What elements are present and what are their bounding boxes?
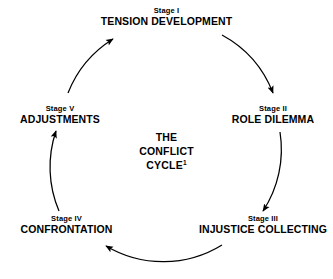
arc-stage3-to-stage4 xyxy=(106,245,222,262)
stage-title-3: INJUSTICE COLLECTING xyxy=(193,224,333,235)
stage-label-injustice-collecting: Stage III INJUSTICE COLLECTING xyxy=(193,215,333,235)
stage-title-4: CONFRONTATION xyxy=(0,224,133,235)
diagram-center-title: THE CONFLICT CYCLE1 xyxy=(0,131,333,173)
stage-label-confrontation: Stage IV CONFRONTATION xyxy=(0,215,133,235)
stage-number-3: Stage III xyxy=(193,215,333,223)
conflict-cycle-diagram: Stage I TENSION DEVELOPMENT Stage II ROL… xyxy=(0,0,333,279)
stage-number-2: Stage II xyxy=(213,105,333,113)
stage-number-4: Stage IV xyxy=(0,215,133,223)
center-title-cycle-word: CYCLE xyxy=(146,159,183,171)
center-title-line-3: CYCLE1 xyxy=(0,159,333,173)
stage-title-5: ADJUSTMENTS xyxy=(0,114,120,125)
stage-label-role-dilemma: Stage II ROLE DILEMMA xyxy=(213,105,333,125)
stage-number-5: Stage V xyxy=(0,105,120,113)
arc-stage5-to-stage1 xyxy=(68,39,113,93)
stage-title-1: TENSION DEVELOPMENT xyxy=(0,16,333,27)
stage-label-tension-development: Stage I TENSION DEVELOPMENT xyxy=(0,7,333,27)
footnote-marker: 1 xyxy=(183,158,187,165)
stage-number-1: Stage I xyxy=(0,7,333,15)
center-title-line-1: THE xyxy=(0,131,333,145)
center-title-line-2: CONFLICT xyxy=(0,145,333,159)
arc-stage1-to-stage2 xyxy=(222,35,273,93)
stage-title-2: ROLE DILEMMA xyxy=(213,114,333,125)
stage-label-adjustments: Stage V ADJUSTMENTS xyxy=(0,105,120,125)
